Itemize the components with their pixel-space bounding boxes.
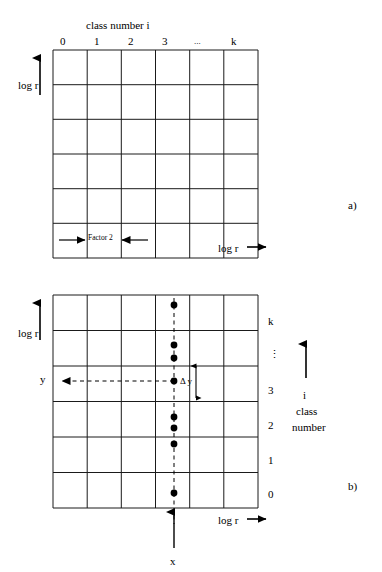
sample-point — [171, 355, 178, 362]
sample-point — [171, 342, 178, 349]
sample-point — [171, 425, 178, 432]
sample-point — [171, 302, 178, 309]
sample-point — [171, 441, 178, 448]
figure-canvas: class number i 0 1 2 3 ... k log r log r… — [0, 0, 382, 572]
panel-b-grid — [53, 295, 258, 508]
panel-b-graphics — [0, 0, 382, 572]
sample-point — [171, 378, 178, 385]
sample-point — [171, 414, 178, 421]
sample-point — [171, 490, 178, 497]
panel-b-label: b) — [348, 481, 357, 492]
